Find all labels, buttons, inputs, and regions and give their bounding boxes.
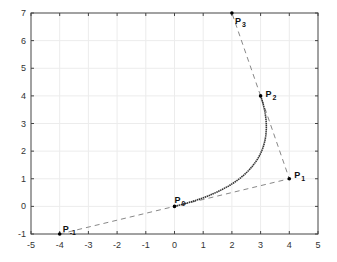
y-tick-label: 2: [21, 146, 26, 156]
y-tick-label: 7: [21, 8, 26, 18]
x-tick-label: -5: [27, 240, 35, 250]
control-point: [58, 232, 62, 236]
x-tick-label: 0: [172, 240, 177, 250]
point-subscript: -1: [70, 229, 76, 236]
x-tick-label: -3: [84, 240, 92, 250]
x-tick-label: -4: [56, 240, 64, 250]
x-tick-label: -2: [113, 240, 121, 250]
point-label: P: [63, 224, 69, 234]
y-tick-label: 1: [21, 174, 26, 184]
point-subscript: 2: [273, 94, 277, 101]
point-subscript: 1: [301, 175, 305, 182]
control-point: [288, 177, 292, 181]
y-tick-label: 5: [21, 63, 26, 73]
point-label: P: [175, 195, 181, 205]
y-tick-label: 4: [21, 91, 26, 101]
y-tick-label: 0: [21, 201, 26, 211]
y-tick-label: 6: [21, 36, 26, 46]
point-label: P: [235, 16, 241, 26]
x-tick-label: 5: [315, 240, 320, 250]
point-subscript: 3: [242, 21, 246, 28]
x-tick-label: 1: [201, 240, 206, 250]
control-point: [230, 11, 234, 15]
x-tick-label: 2: [229, 240, 234, 250]
x-tick-label: 3: [258, 240, 263, 250]
point-label: P: [266, 89, 272, 99]
y-tick-label: -1: [18, 229, 26, 239]
x-tick-label: -1: [142, 240, 150, 250]
chart: -5-4-3-2-1012345-101234567P0P1P2P3P-1: [0, 0, 337, 262]
y-tick-label: 3: [21, 119, 26, 129]
control-point: [259, 94, 263, 98]
x-tick-label: 4: [287, 240, 292, 250]
point-label: P: [294, 170, 300, 180]
point-subscript: 0: [182, 200, 186, 207]
